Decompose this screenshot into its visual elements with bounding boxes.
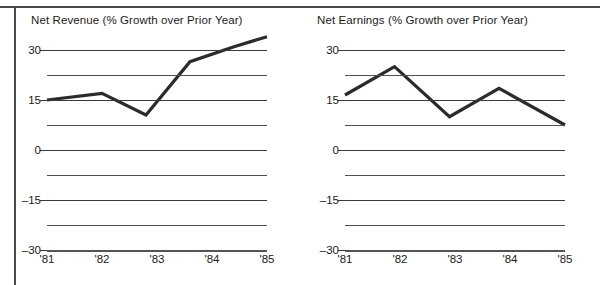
gridline-minor-revenue bbox=[47, 175, 267, 176]
gridline-revenue-0 bbox=[47, 150, 267, 151]
x-axis-label-revenue-83: '83 bbox=[150, 253, 165, 265]
y-axis-label-earnings-0: 0 bbox=[333, 144, 339, 156]
chart-panel-net-revenue: Net Revenue (% Growth over Prior Year) 3… bbox=[0, 0, 300, 285]
y-axis-label-earnings-15: 15 bbox=[326, 94, 339, 106]
gridline-earnings-15 bbox=[345, 100, 565, 101]
gridline-minor-revenue bbox=[47, 125, 267, 126]
y-axis-label-revenue--30: –30 bbox=[22, 244, 41, 256]
y-tick-mark-revenue-15 bbox=[40, 100, 47, 101]
y-axis-label-revenue-15: 15 bbox=[28, 94, 41, 106]
chart-title-net-earnings: Net Earnings (% Growth over Prior Year) bbox=[317, 14, 528, 26]
y-tick-mark-earnings-15 bbox=[338, 100, 345, 101]
chart-panel-net-earnings: Net Earnings (% Growth over Prior Year) … bbox=[300, 0, 600, 285]
x-axis-label-earnings-85: '85 bbox=[558, 253, 573, 265]
gridline-minor-revenue bbox=[47, 75, 267, 76]
y-axis-label-earnings--15: –15 bbox=[320, 194, 339, 206]
plot-area-net-earnings: 30150–15–30'81'82'83'84'85 bbox=[345, 50, 565, 250]
gridline-earnings-0 bbox=[345, 150, 565, 151]
x-axis-label-earnings-82: '82 bbox=[393, 253, 408, 265]
x-axis-label-revenue-84: '84 bbox=[205, 253, 220, 265]
gridline-earnings--15 bbox=[345, 200, 565, 201]
gridline-earnings--30 bbox=[345, 250, 565, 252]
y-axis-label-revenue-0: 0 bbox=[35, 144, 41, 156]
gridline-minor-revenue bbox=[47, 225, 267, 226]
y-tick-mark-earnings--15 bbox=[338, 200, 345, 201]
y-tick-mark-revenue-0 bbox=[40, 150, 47, 151]
figure-frame: Net Revenue (% Growth over Prior Year) 3… bbox=[0, 0, 600, 285]
y-axis-label-earnings--30: –30 bbox=[320, 244, 339, 256]
x-axis-label-revenue-81: '81 bbox=[40, 253, 55, 265]
y-tick-mark-earnings-30 bbox=[338, 50, 345, 51]
gridline-revenue-15 bbox=[47, 100, 267, 101]
x-axis-label-earnings-84: '84 bbox=[503, 253, 518, 265]
y-tick-mark-revenue-30 bbox=[40, 50, 47, 51]
gridline-revenue--15 bbox=[47, 200, 267, 201]
chart-title-net-revenue: Net Revenue (% Growth over Prior Year) bbox=[31, 14, 243, 26]
x-axis-label-revenue-85: '85 bbox=[260, 253, 275, 265]
y-axis-label-earnings-30: 30 bbox=[326, 44, 339, 56]
gridline-revenue--30 bbox=[47, 250, 267, 252]
gridline-revenue-30 bbox=[47, 50, 267, 51]
y-tick-mark-revenue--30 bbox=[40, 250, 47, 251]
gridline-earnings-30 bbox=[345, 50, 565, 51]
gridline-minor-earnings bbox=[345, 225, 565, 226]
x-axis-label-revenue-82: '82 bbox=[95, 253, 110, 265]
plot-area-net-revenue: 30150–15–30'81'82'83'84'85 bbox=[47, 50, 267, 250]
y-axis-label-revenue-30: 30 bbox=[28, 44, 41, 56]
x-axis-label-earnings-81: '81 bbox=[338, 253, 353, 265]
y-tick-mark-earnings--30 bbox=[338, 250, 345, 251]
y-tick-mark-earnings-0 bbox=[338, 150, 345, 151]
y-axis-label-revenue--15: –15 bbox=[22, 194, 41, 206]
y-tick-mark-revenue--15 bbox=[40, 200, 47, 201]
gridline-minor-earnings bbox=[345, 75, 565, 76]
x-axis-label-earnings-83: '83 bbox=[448, 253, 463, 265]
gridline-minor-earnings bbox=[345, 125, 565, 126]
gridline-minor-earnings bbox=[345, 175, 565, 176]
